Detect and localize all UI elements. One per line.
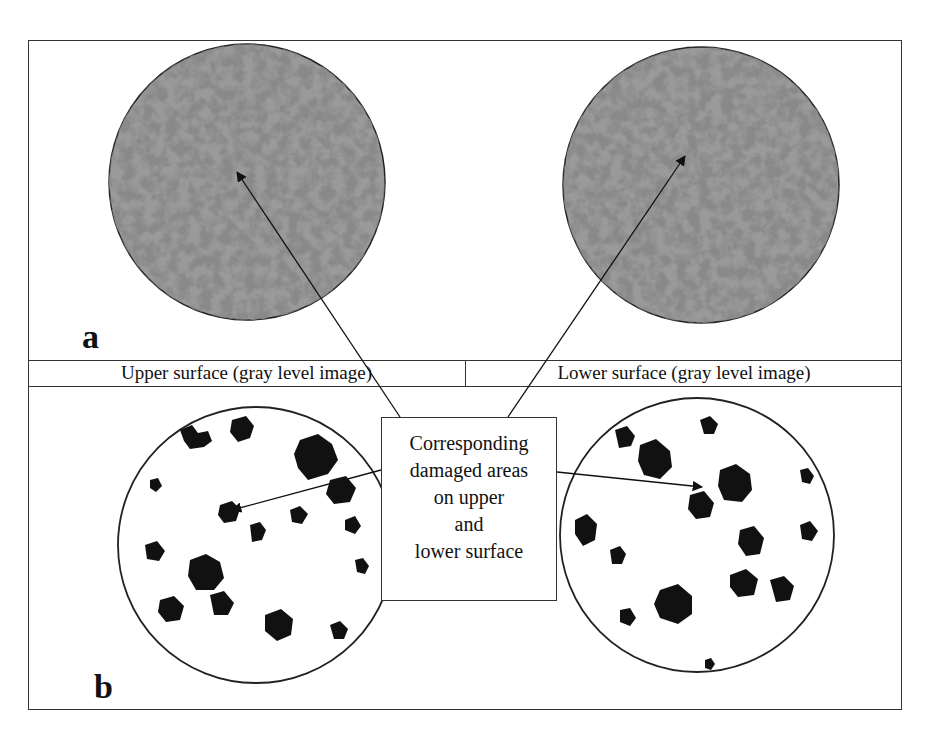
upper-surface-caption: Upper surface (gray level image) [28, 360, 465, 386]
callout-line: Corresponding [382, 430, 556, 457]
callout-line: on upper [382, 484, 556, 511]
lower-surface-gray-disc [563, 47, 839, 323]
panel-b-label: b [94, 668, 113, 706]
lower-surface-caption: Lower surface (gray level image) [466, 360, 902, 386]
callout-box: Corresponding damaged areas on upper and… [381, 417, 557, 601]
callout-line: and [382, 511, 556, 538]
callout-line: lower surface [382, 538, 556, 565]
panel-a-label: a [82, 318, 99, 356]
lower-surface-binary-disc [560, 398, 834, 672]
upper-surface-gray-disc [109, 44, 385, 320]
callout-line: damaged areas [382, 457, 556, 484]
upper-surface-binary-disc [118, 407, 394, 683]
